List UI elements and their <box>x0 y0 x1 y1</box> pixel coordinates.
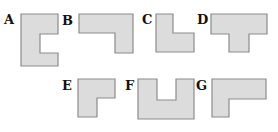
shape-g-outline <box>212 79 266 117</box>
shape-c-outline <box>156 14 194 52</box>
shape-c: C <box>142 12 194 52</box>
shape-f-outline <box>138 79 194 119</box>
shape-c-label: C <box>142 12 152 27</box>
shapes-diagram: A B C D E F G <box>0 0 278 132</box>
shape-f-label: F <box>125 78 135 93</box>
shape-e: E <box>62 78 115 117</box>
shape-a: A <box>3 12 58 66</box>
shape-b-outline <box>79 14 133 53</box>
shape-g: G <box>196 78 266 117</box>
shape-e-outline <box>78 79 115 117</box>
shape-d: D <box>197 12 267 52</box>
shape-b-label: B <box>62 13 73 28</box>
shape-g-label: G <box>196 78 207 93</box>
shape-b: B <box>62 13 133 53</box>
shape-a-outline <box>21 14 58 66</box>
shape-a-label: A <box>3 12 15 27</box>
shape-f: F <box>125 78 194 119</box>
shape-d-outline <box>211 14 267 52</box>
shape-d-label: D <box>197 12 208 27</box>
shape-e-label: E <box>62 78 72 93</box>
